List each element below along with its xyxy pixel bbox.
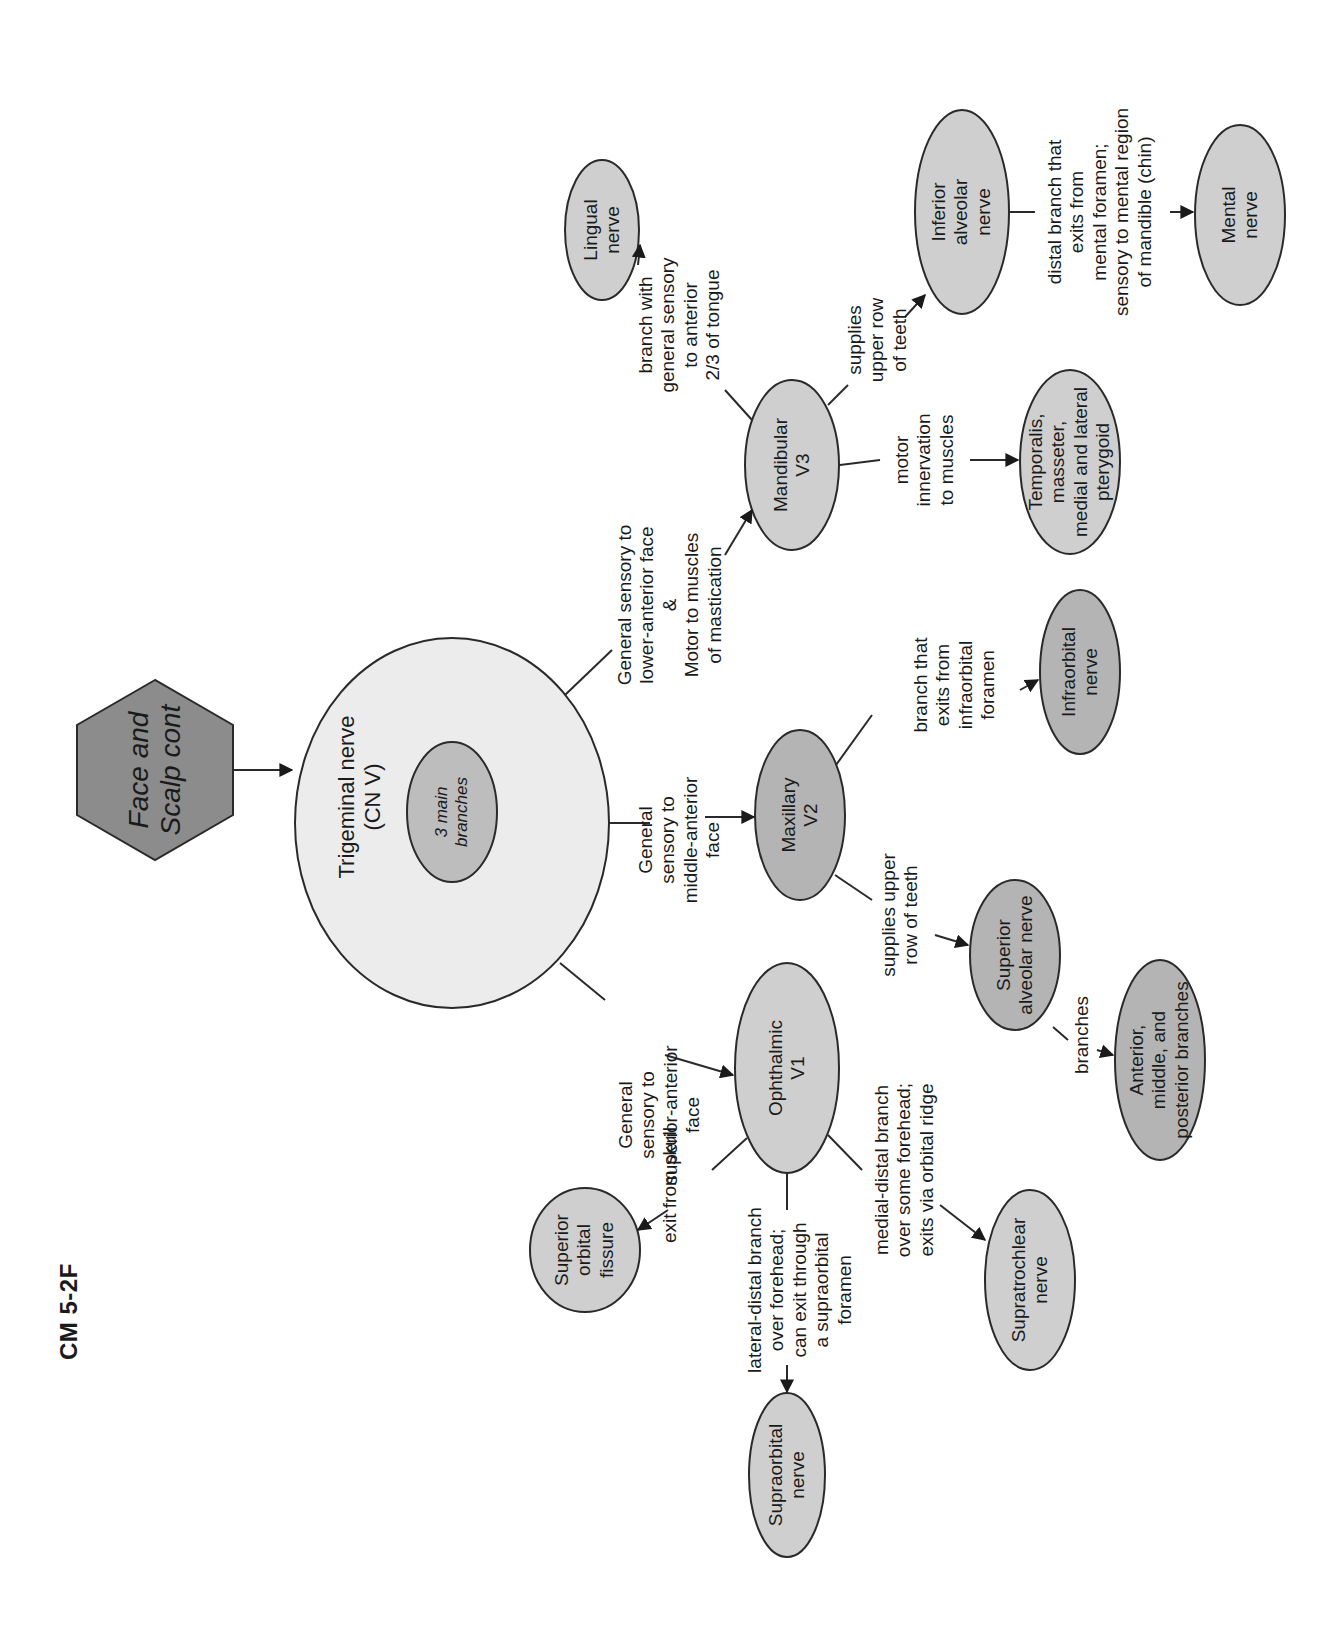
edge-v3-ia-a <box>828 385 848 405</box>
muscles-label: Temporalis, masseter, medial and lateral… <box>1025 387 1115 537</box>
edge-sa-amp-b <box>1097 1050 1113 1055</box>
edge-v2-infra-b <box>1020 680 1038 690</box>
v3-edge-label: General sensory to lower-anterior face &… <box>614 525 726 686</box>
figure-id: CM 5-2F <box>55 1263 83 1360</box>
amp-edge-label: branches <box>1071 996 1093 1074</box>
maxillary-v2-label: Maxillary V2 <box>778 778 823 853</box>
mandibular-v3-label: Mandibular V3 <box>770 418 815 512</box>
edge-trig-v3-a <box>565 650 612 695</box>
sof-edge-label: exit from skull <box>659 1127 681 1243</box>
edge-trig-v3-b <box>725 510 752 555</box>
trigeminal-label: Trigeminal nerve (CN V) <box>334 715 386 878</box>
concept-map-diagram: CM 5-2F Face and Scalp cont Trigeminal n… <box>0 0 1339 1635</box>
edge-v3-musc-a <box>840 460 880 465</box>
supratrochlear-edge-label: medial-distal branch over some forehead;… <box>871 1083 938 1257</box>
ophthalmic-v1-label: Ophthalmic V1 <box>765 1020 810 1116</box>
edge-v1-supratroch-b <box>940 1205 985 1240</box>
edge-sa-amp-a <box>1053 1027 1068 1040</box>
v2-edge-label: General sensory to middle-anterior face <box>635 777 725 904</box>
mental-edge-label: distal branch that exits from mental for… <box>1044 108 1156 316</box>
edge-v2-sa-a <box>835 875 872 900</box>
infraorbital-edge-label: branch that exits from infraorbital fora… <box>910 637 1000 732</box>
lingual-label: Lingual nerve <box>580 199 625 260</box>
three-branches-label: 3 main branches <box>432 777 472 847</box>
mental-label: Mental nerve <box>1218 186 1263 243</box>
muscles-edge-label: motor innervation to muscles <box>891 414 958 507</box>
lingual-edge-label: branch with general sensory to anterior … <box>635 257 725 392</box>
edge-trig-v1-a <box>560 963 605 1000</box>
edge-v2-sa-b <box>935 935 968 945</box>
supraorbital-label: Supraorbital nerve <box>765 1424 810 1526</box>
supratrochlear-label: Supratrochlear nerve <box>1008 1218 1053 1343</box>
sof-label: Superior orbital fissure <box>551 1214 618 1286</box>
edge-v1-sof-a <box>712 1138 747 1170</box>
edge-v1-supratroch-a <box>828 1135 862 1170</box>
superior-alveolar-label: Superior alveolar nerve <box>993 895 1038 1014</box>
superior-alveolar-edge-label: supplies upper row of teeth <box>878 853 923 977</box>
inferior-alveolar-edge-label: supplies upper row of teeth <box>844 298 911 383</box>
edge-v2-infra-a <box>836 715 872 765</box>
amp-branches-label: Anterior, middle, and posterior branches <box>1126 981 1193 1138</box>
inferior-alveolar-label: Inferior alveolar nerve <box>928 179 995 246</box>
edge-v3-lingual-a <box>725 390 752 420</box>
infraorbital-label: Infraorbital nerve <box>1058 627 1103 717</box>
supraorbital-edge-label: lateral-distal branch over forehead; can… <box>744 1207 856 1373</box>
root-label: Face and Scalp cont <box>123 705 187 836</box>
